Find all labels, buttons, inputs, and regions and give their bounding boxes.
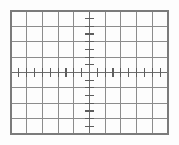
oscilloscope-graticule <box>0 0 179 145</box>
graticule-canvas <box>0 0 179 145</box>
